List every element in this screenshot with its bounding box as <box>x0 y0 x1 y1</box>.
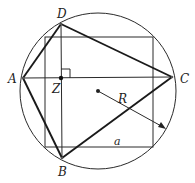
arrowhead-icon <box>158 122 166 129</box>
label-B: B <box>57 165 67 179</box>
point-D <box>60 23 63 26</box>
label-a: a <box>114 135 121 148</box>
label-R: R <box>117 92 127 106</box>
side-DC <box>61 24 172 77</box>
geometry-diagram: D A Z C R a B <box>0 0 195 183</box>
point-Z <box>59 76 63 80</box>
label-D: D <box>56 7 67 21</box>
label-Z: Z <box>51 82 61 96</box>
label-C: C <box>180 72 189 86</box>
point-B <box>61 157 64 160</box>
point-C <box>171 76 174 79</box>
diagonal-DB <box>61 24 62 158</box>
label-A: A <box>7 72 17 86</box>
center-point <box>96 89 100 93</box>
point-A <box>22 77 25 80</box>
side-AD <box>23 24 61 78</box>
